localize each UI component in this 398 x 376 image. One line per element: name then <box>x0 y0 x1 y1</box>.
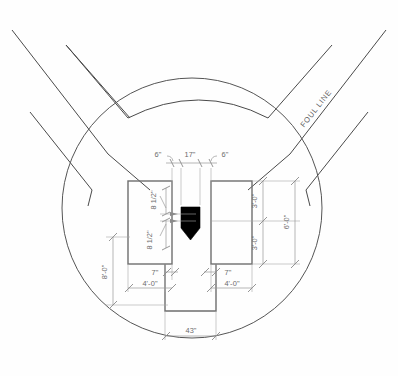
left-foul-line-to-plate <box>66 45 128 118</box>
top-left-leader <box>167 156 173 161</box>
home-plate-pentagon <box>181 207 200 240</box>
dim-top-left-offset: 6" <box>155 150 162 159</box>
left-85-lower-leader <box>160 224 166 236</box>
left-outer-foul-line <box>12 30 108 154</box>
left-dirt-edge-line <box>108 154 150 190</box>
dim-left-catcher-width: 4'-0" <box>142 279 157 288</box>
dim-right-box-lower: 3'-0" <box>250 235 259 250</box>
right-outer-foul-line <box>290 30 386 154</box>
right-dirt-edge-line <box>248 154 290 190</box>
foul-line-label-group: FOUL LINE <box>299 88 334 129</box>
dim-plate-width: 17" <box>184 150 195 159</box>
bottom-dimension-group: 43" <box>162 311 220 340</box>
left-catcher-dimension-group: 7" 4'-0" <box>125 264 179 292</box>
right-vertical-dimension-group: 3'-0" 3'-0" 6'-0" <box>212 177 300 268</box>
dim-left-box-upper: 8 1/2" <box>149 190 158 209</box>
right-inner-field-line <box>306 112 368 206</box>
left-inner-field-line <box>30 112 92 206</box>
dim-right-catcher-offset: 7" <box>225 268 232 277</box>
dim-right-box-total: 6'-0" <box>282 214 291 229</box>
right-batters-box <box>211 181 252 264</box>
left-85-upper-leader <box>160 196 166 208</box>
top-right-leader <box>211 156 217 161</box>
foul-line-label: FOUL LINE <box>299 88 334 129</box>
dim-left-catcher-offset: 7" <box>152 268 159 277</box>
technical-drawing-canvas: 6" 17" 6" 8 1/2" 8 1/2" <box>0 0 398 376</box>
dim-right-catcher-width: 4'-0" <box>224 279 239 288</box>
right-catcher-dimension-group: 7" 4'-0" <box>201 264 256 292</box>
home-plate-plan-drawing: 6" 17" 6" 8 1/2" 8 1/2" <box>0 0 398 376</box>
dim-left-box-total: 8'-0" <box>100 264 109 279</box>
dim-top-right-offset: 6" <box>222 150 229 159</box>
dim-right-box-upper: 3'-0" <box>250 193 259 208</box>
plate-arrow-upper <box>170 212 178 216</box>
field-boundary-lines <box>12 30 386 206</box>
dim-catcher-box-width: 43" <box>185 326 196 335</box>
dim-left-box-lower: 8 1/2" <box>145 230 154 249</box>
infield-grass-arc <box>128 100 268 118</box>
plate-arrow-lower <box>170 219 178 223</box>
home-plate <box>181 207 200 240</box>
